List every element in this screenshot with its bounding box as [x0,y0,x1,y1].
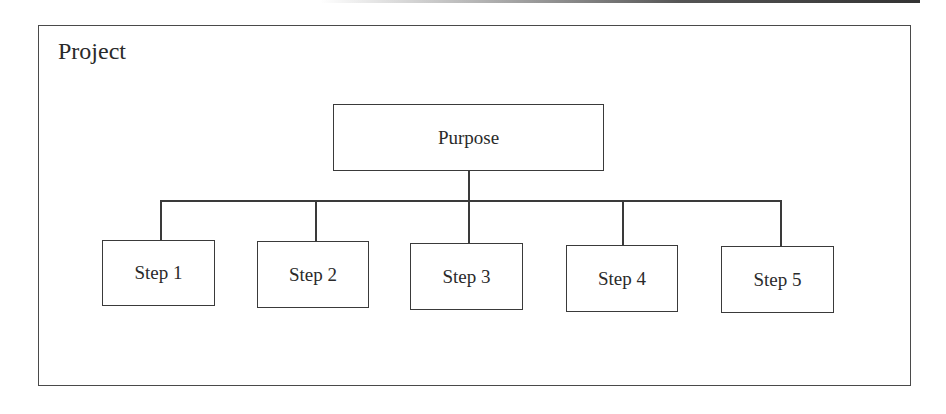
step-5-box: Step 5 [721,246,834,313]
frame-title: Project [58,38,126,65]
step-2-connector [315,200,317,241]
step-3-box: Step 3 [410,243,523,310]
purpose-label: Purpose [438,127,499,149]
step-1-label: Step 1 [134,262,182,284]
step-4-connector [622,200,624,245]
step-3-connector [468,200,470,243]
step-1-box: Step 1 [102,240,215,306]
step-3-label: Step 3 [442,266,490,288]
purpose-box: Purpose [333,104,604,171]
horizontal-connector [160,200,781,202]
step-4-box: Step 4 [566,245,678,312]
step-4-label: Step 4 [598,268,646,290]
step-5-label: Step 5 [753,269,801,291]
step-5-connector [780,200,782,246]
root-connector [468,171,470,201]
step-1-connector [160,200,162,240]
page-edge-shadow [320,0,920,3]
step-2-label: Step 2 [289,264,337,286]
step-2-box: Step 2 [257,241,369,308]
